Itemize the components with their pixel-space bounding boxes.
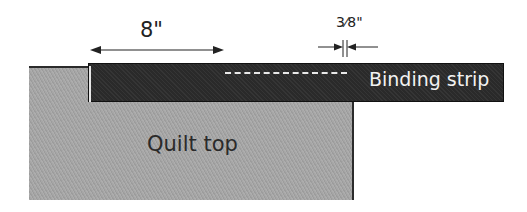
length-arrow-icon <box>90 46 224 54</box>
dimension-arrows <box>0 0 527 212</box>
seam-allowance-arrows-icon <box>318 40 378 57</box>
